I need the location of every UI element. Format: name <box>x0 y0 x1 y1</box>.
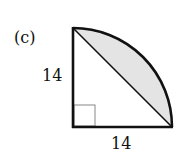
quarter-circle-diagram <box>0 0 185 156</box>
right-angle-mark <box>74 105 95 126</box>
